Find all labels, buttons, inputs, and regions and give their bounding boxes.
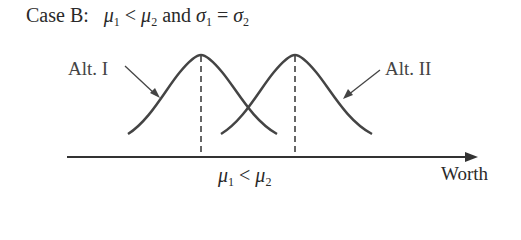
- axis-label: Worth: [441, 163, 488, 185]
- mu-symbol: μ: [218, 164, 228, 186]
- mu-symbol: μ: [255, 164, 265, 186]
- alt2-pointer: [348, 70, 380, 95]
- subscript: 1: [228, 175, 234, 189]
- axis-arrow-icon: [465, 152, 478, 162]
- alt2-label: Alt. II: [385, 58, 431, 80]
- alt1-arrowhead-icon: [150, 88, 160, 98]
- alt1-curve: [128, 55, 277, 134]
- subscript: 2: [265, 175, 271, 189]
- mean-comparison-label: μ1 < μ2: [218, 164, 271, 190]
- alt2-arrowhead-icon: [343, 89, 353, 99]
- alt1-label: Alt. I: [68, 58, 108, 80]
- lt-symbol: <: [239, 164, 250, 186]
- alt1-pointer: [125, 66, 155, 94]
